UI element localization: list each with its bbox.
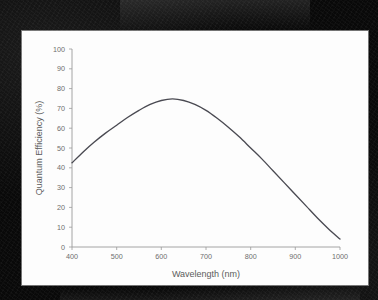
y-tick-label: 20: [57, 203, 65, 212]
background-highlight-top: [120, 0, 310, 31]
y-tick-label: 10: [57, 223, 65, 232]
screenshot-root: 0 10 20 30 40 50 60 70 80 90 100: [0, 0, 378, 300]
x-tick-label: 600: [155, 252, 167, 261]
y-tick-label: 30: [57, 183, 65, 192]
x-axis-title: Wavelength (nm): [172, 269, 240, 279]
x-tick-label: 700: [200, 252, 212, 261]
x-tick-label: 400: [66, 252, 78, 261]
y-tick-label: 80: [57, 84, 65, 93]
quantum-efficiency-curve: [72, 99, 340, 239]
y-tick-label: 90: [57, 64, 65, 73]
x-tick-label: 500: [111, 252, 123, 261]
y-tick-label: 100: [53, 45, 65, 54]
figure-card: 0 10 20 30 40 50 60 70 80 90 100: [22, 31, 368, 285]
y-tick-label: 0: [61, 243, 65, 252]
x-axis-tick-labels: 400 500 600 700 800 900 1000: [66, 252, 348, 261]
background-highlight-bottom: [60, 288, 360, 300]
x-tick-label: 900: [289, 252, 301, 261]
x-tick-label: 800: [245, 252, 257, 261]
quantum-efficiency-chart: 0 10 20 30 40 50 60 70 80 90 100: [22, 31, 368, 285]
y-axis-tick-labels: 0 10 20 30 40 50 60 70 80 90 100: [53, 45, 65, 252]
y-tick-label: 40: [57, 163, 65, 172]
y-tick-label: 50: [57, 144, 65, 153]
y-tick-label: 60: [57, 124, 65, 133]
x-tick-label: 1000: [332, 252, 348, 261]
y-axis-title: Quantum Efficiency (%): [34, 101, 44, 195]
y-tick-label: 70: [57, 104, 65, 113]
